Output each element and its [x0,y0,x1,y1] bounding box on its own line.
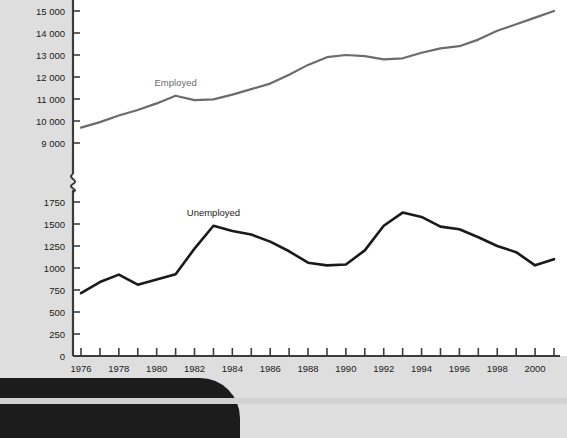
svg-text:1996: 1996 [449,363,470,374]
svg-text:1978: 1978 [108,363,129,374]
svg-text:1750: 1750 [44,197,65,208]
svg-text:1250: 1250 [44,241,65,252]
svg-text:1990: 1990 [335,363,356,374]
svg-text:1000: 1000 [44,263,65,274]
svg-text:1982: 1982 [184,363,205,374]
axis-lines [73,0,560,356]
page-corner-decoration [0,378,240,438]
svg-text:0: 0 [60,351,65,362]
svg-text:1980: 1980 [146,363,167,374]
svg-text:250: 250 [49,329,65,340]
series-lines [81,11,554,293]
svg-text:10 000: 10 000 [36,116,65,127]
svg-text:13 000: 13 000 [36,50,65,61]
svg-text:14 000: 14 000 [36,28,65,39]
svg-text:Employed: Employed [154,77,196,88]
svg-text:1988: 1988 [297,363,318,374]
svg-text:1500: 1500 [44,219,65,230]
svg-text:15 000: 15 000 [36,6,65,17]
svg-text:1994: 1994 [411,363,432,374]
axis-break-symbol [71,174,75,192]
bottom-edge-strip [0,398,567,404]
svg-text:12 000: 12 000 [36,72,65,83]
x-axis-ticks: 1976197819801982198419861988199019921994… [70,348,554,374]
svg-text:2000: 2000 [525,363,546,374]
svg-text:750: 750 [49,285,65,296]
svg-text:500: 500 [49,307,65,318]
svg-text:9 000: 9 000 [41,138,65,149]
svg-text:11 000: 11 000 [37,94,65,105]
series-annotations: EmployedUnemployed [154,77,240,218]
svg-text:1984: 1984 [222,363,243,374]
svg-text:1992: 1992 [373,363,394,374]
y-axis-lower-ticks: 02505007501000125015001750 [44,197,80,362]
svg-text:1998: 1998 [487,363,508,374]
svg-text:Unemployed: Unemployed [187,207,240,218]
svg-text:1976: 1976 [70,363,91,374]
svg-text:1986: 1986 [260,363,281,374]
